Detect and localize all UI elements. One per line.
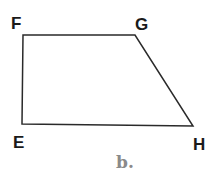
- vertex-label-h: H: [193, 135, 205, 154]
- vertex-label-g: G: [135, 15, 148, 34]
- trapezoid-efgh: [22, 35, 193, 126]
- vertex-label-f: F: [11, 14, 21, 33]
- trapezoid-diagram: F G E H b.: [0, 0, 214, 171]
- figure-caption: b.: [116, 152, 134, 171]
- vertex-label-e: E: [13, 133, 24, 152]
